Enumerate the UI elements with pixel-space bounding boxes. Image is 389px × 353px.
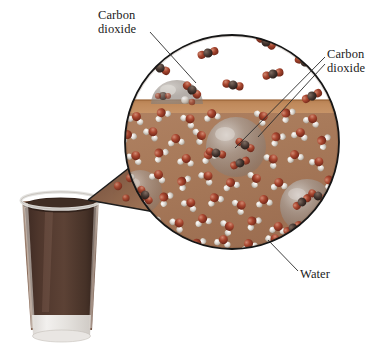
label-carbon-dioxide-right-line1: Carbon [327,47,364,61]
magnified-view [116,30,350,255]
label-carbon-dioxide-top-line1: Carbon [98,8,135,22]
label-carbon-dioxide-right-line2: dioxide [327,61,365,75]
label-carbon-dioxide-top-line2: dioxide [98,22,136,36]
glass-liquid [25,208,96,318]
label-carbon-dioxide-right: Carbondioxide [327,47,365,75]
leader-water [268,240,298,271]
figure-canvas: Carbondioxide Carbondioxide Water [0,0,389,353]
label-water: Water [300,267,330,281]
label-carbon-dioxide-top: Carbondioxide [98,8,136,36]
drinking-glass [21,192,100,342]
